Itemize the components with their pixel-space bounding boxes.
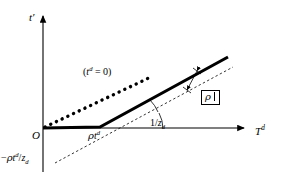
- y-axis-label: t′: [29, 12, 34, 23]
- figure-container: t′ Td O (td = 0) ρtd 1/zd −ρtd/zd ρ: [0, 0, 285, 182]
- slope-numerator: 1/: [150, 117, 158, 128]
- origin-label-text: O: [32, 129, 40, 141]
- kink-superscript: d: [97, 129, 100, 136]
- kink-point-label: ρtd: [88, 130, 100, 141]
- slope-subscript: d: [162, 123, 165, 130]
- zero-delay-rest: = 0): [92, 66, 111, 77]
- gap-rho-boxed-label: ρ: [201, 90, 220, 105]
- zero-delay-dotted-line: [45, 76, 153, 127]
- diagram-canvas: [0, 0, 285, 182]
- slope-angle-label: 1/zd: [150, 118, 165, 131]
- reference-dashed-line: [55, 67, 233, 163]
- x-axis-label: Td: [255, 125, 265, 137]
- zero-delay-line-label: (td = 0): [83, 66, 111, 77]
- x-axis-label-superscript: d: [261, 124, 265, 132]
- angle-arc-gap: [150, 100, 158, 112]
- gap-rho-bar: [214, 92, 215, 101]
- intercept-z-subscript: d: [25, 158, 28, 165]
- y-intercept-label: −ρtd/zd: [1, 152, 29, 166]
- origin-label: O: [32, 130, 40, 141]
- y-axis-label-text: t′: [29, 11, 34, 23]
- gap-rho-symbol: ρ: [205, 91, 211, 102]
